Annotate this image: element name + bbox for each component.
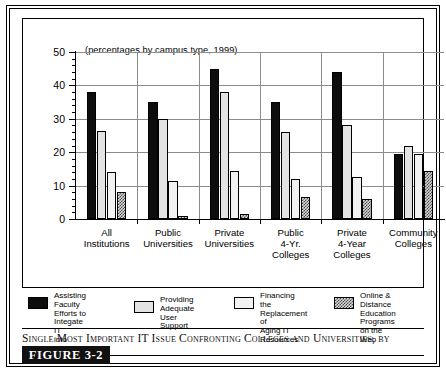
x-tick — [199, 220, 200, 224]
chart-legend: Assisting FacultyEfforts to Integate ITi… — [22, 292, 424, 326]
y-tick-label: 50 — [39, 47, 65, 57]
y-tick-major — [69, 186, 76, 187]
category-separator — [199, 52, 200, 219]
y-tick-major — [69, 152, 76, 153]
bar — [230, 171, 240, 219]
y-tick-label: 40 — [39, 80, 65, 90]
bar — [148, 102, 158, 219]
x-tick — [260, 220, 261, 224]
bar — [178, 216, 188, 219]
legend-label: Providing AdequateUser Support — [160, 296, 194, 331]
bar — [271, 102, 281, 219]
bar — [107, 172, 117, 219]
x-category-label: Public4-Yr.Colleges — [260, 227, 321, 260]
category-separator — [383, 52, 384, 219]
caption-rule — [22, 328, 424, 329]
legend-swatch — [234, 297, 254, 309]
bar — [404, 146, 414, 219]
bar — [301, 197, 311, 219]
bar — [362, 199, 372, 219]
x-category-label: PublicUniversities — [137, 227, 198, 249]
legend-swatch — [28, 297, 48, 309]
category-separator — [321, 52, 322, 219]
y-tick-label: 10 — [39, 181, 65, 191]
category-separator — [137, 52, 138, 219]
bar — [87, 92, 97, 219]
bar — [291, 179, 301, 219]
bar — [158, 119, 168, 219]
category-separator — [260, 52, 261, 219]
y-tick-major — [69, 52, 76, 53]
figure-container: (percentages by campus type, 1999) 01020… — [0, 0, 446, 372]
bar — [414, 154, 424, 219]
y-tick-label: 20 — [39, 147, 65, 157]
bar — [394, 154, 404, 219]
x-category-label: Private4-YearColleges — [321, 227, 382, 260]
bar — [210, 69, 220, 219]
y-tick-major — [69, 85, 76, 86]
y-tick-label: 0 — [39, 214, 65, 224]
y-tick-major — [69, 119, 76, 120]
figure-tag-rule — [110, 355, 424, 356]
x-tick — [321, 220, 322, 224]
plot-area — [76, 52, 444, 219]
x-category-label: PrivateUniversities — [199, 227, 260, 249]
legend-swatch — [334, 297, 354, 309]
chart-panel: (percentages by campus type, 1999) 01020… — [22, 18, 424, 288]
y-tick-label: 30 — [39, 114, 65, 124]
y-tick-major — [69, 219, 76, 220]
bar — [352, 177, 362, 219]
figure-tag: FIGURE 3-2 — [22, 346, 110, 364]
legend-swatch — [134, 301, 154, 313]
bar — [332, 72, 342, 219]
bar — [117, 192, 127, 219]
bar — [342, 125, 352, 219]
bar — [97, 131, 107, 220]
bar — [281, 132, 291, 219]
x-category-label: CommunityColleges — [383, 227, 444, 249]
bar — [240, 214, 250, 219]
x-tick — [137, 220, 138, 224]
x-category-label: AllInstitutions — [76, 227, 137, 249]
bar — [424, 171, 434, 219]
x-tick — [383, 220, 384, 224]
bar — [220, 92, 230, 219]
bar — [168, 181, 178, 219]
